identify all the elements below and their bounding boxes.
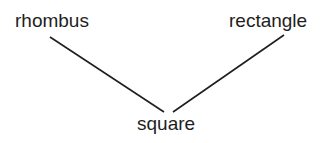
- node-rectangle: rectangle: [229, 10, 307, 32]
- edge-rhombus-square: [50, 37, 164, 112]
- node-square: square: [137, 113, 195, 135]
- node-rhombus: rhombus: [15, 10, 89, 32]
- edge-rectangle-square: [173, 35, 284, 112]
